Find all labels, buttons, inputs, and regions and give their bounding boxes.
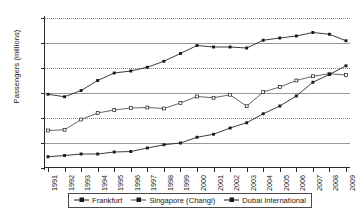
series-singapore-changi — [47, 72, 348, 132]
x-axis-tick-mark-2006 — [296, 168, 297, 172]
data-point — [229, 93, 232, 96]
x-axis-tick-label-1999: 1999 — [183, 175, 190, 191]
x-axis-tick-label-2004: 2004 — [266, 175, 273, 191]
passenger-line-chart: Passengers (millions) 0102030405060 1991… — [0, 0, 356, 219]
data-point — [63, 128, 66, 131]
data-point — [328, 73, 331, 76]
x-axis-tick-label-1995: 1995 — [117, 175, 124, 191]
x-axis-tick-mark-1997 — [147, 168, 148, 172]
legend-marker-frankfurt — [74, 196, 89, 204]
x-axis-tick-label-1997: 1997 — [150, 175, 157, 191]
x-axis-tick-label-1991: 1991 — [51, 175, 58, 191]
data-point — [63, 154, 66, 157]
data-point — [162, 107, 165, 110]
x-axis-tick-label-2002: 2002 — [233, 175, 240, 191]
x-axis-tick-label-2003: 2003 — [250, 175, 257, 191]
data-point — [229, 127, 232, 130]
data-point — [196, 95, 199, 98]
data-point — [245, 105, 248, 108]
legend-item-singapore[interactable]: Singapore (Changi) — [131, 196, 215, 205]
plot-area: 0102030405060 19911992199319941995199619… — [44, 18, 350, 168]
data-point — [179, 52, 182, 55]
x-axis-tick-mark-2004 — [263, 168, 264, 172]
x-axis-tick-mark-1995 — [114, 168, 115, 172]
data-point — [63, 95, 66, 98]
x-axis-tick-mark-2005 — [280, 168, 281, 172]
x-axis-tick-mark-1998 — [164, 168, 165, 172]
legend-item-frankfurt[interactable]: Frankfurt — [74, 196, 122, 205]
x-axis-tick-label-2001: 2001 — [217, 175, 224, 191]
x-axis-tick-mark-1994 — [98, 168, 99, 172]
data-point — [96, 112, 99, 115]
data-point — [311, 31, 314, 34]
data-point — [345, 64, 348, 67]
data-point — [295, 35, 298, 38]
data-point — [96, 153, 99, 156]
x-axis-tick-mark-1996 — [131, 168, 132, 172]
x-axis-tick-mark-1999 — [180, 168, 181, 172]
data-point — [80, 153, 83, 156]
data-point — [345, 39, 348, 42]
data-point — [47, 129, 50, 132]
legend-marker-singapore — [131, 196, 146, 204]
x-axis-tick-mark-1991 — [48, 168, 49, 172]
data-point — [146, 106, 149, 109]
x-axis-tick-mark-2002 — [230, 168, 231, 172]
data-point — [179, 102, 182, 105]
x-axis-tick-mark-1992 — [65, 168, 66, 172]
data-point — [129, 150, 132, 153]
data-point — [328, 33, 331, 36]
data-point — [96, 79, 99, 82]
x-axis-tick-mark-2001 — [214, 168, 215, 172]
x-axis-tick-label-2008: 2008 — [332, 175, 339, 191]
data-point — [129, 70, 132, 73]
series-line — [48, 74, 346, 131]
data-point — [262, 91, 265, 94]
x-axis-tick-label-2007: 2007 — [316, 175, 323, 191]
data-point — [278, 105, 281, 108]
legend-label-dubai: Dubai International — [242, 196, 306, 205]
data-point — [196, 44, 199, 47]
data-point — [212, 46, 215, 49]
data-point — [47, 155, 50, 158]
series-line — [48, 33, 346, 97]
data-point — [162, 143, 165, 146]
data-point — [113, 109, 116, 112]
data-point — [295, 79, 298, 82]
x-axis-tick-label-1993: 1993 — [84, 175, 91, 191]
data-point — [113, 72, 116, 75]
x-axis-tick-label-1998: 1998 — [167, 175, 174, 191]
x-axis-tick-label-2005: 2005 — [283, 175, 290, 191]
data-point — [212, 96, 215, 99]
data-point — [311, 75, 314, 78]
data-point — [80, 118, 83, 121]
x-axis-tick-label-2006: 2006 — [299, 175, 306, 191]
x-axis-tick-mark-2000 — [197, 168, 198, 172]
series-layer — [44, 18, 350, 168]
x-axis-tick-mark-2007 — [313, 168, 314, 172]
y-axis-title: Passengers (millions) — [12, 7, 21, 127]
x-axis-tick-label-1994: 1994 — [101, 175, 108, 191]
data-point — [278, 86, 281, 89]
series-dubai-international — [47, 64, 348, 158]
y-axis-tick-mark-0 — [41, 168, 45, 169]
data-point — [229, 46, 232, 49]
data-point — [311, 81, 314, 84]
series-frankfurt — [47, 31, 348, 98]
data-point — [146, 66, 149, 69]
data-point — [245, 121, 248, 124]
legend-marker-dubai — [224, 196, 239, 204]
legend-item-dubai[interactable]: Dubai International — [224, 196, 306, 205]
x-axis-tick-mark-2009 — [346, 168, 347, 172]
data-point — [245, 47, 248, 50]
data-point — [146, 147, 149, 150]
data-point — [278, 37, 281, 40]
data-point — [162, 60, 165, 63]
x-axis-tick-label-2000: 2000 — [200, 175, 207, 191]
data-point — [345, 74, 348, 77]
data-point — [262, 112, 265, 115]
data-point — [80, 89, 83, 92]
data-point — [47, 93, 50, 96]
x-axis-tick-label-1992: 1992 — [68, 175, 75, 191]
x-axis-tick-mark-2003 — [247, 168, 248, 172]
